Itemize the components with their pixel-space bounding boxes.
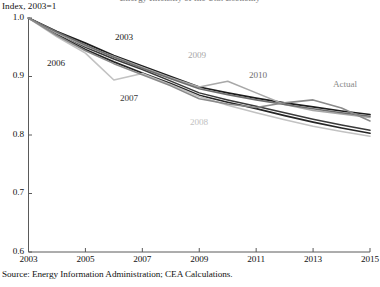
series-line-2003: [29, 18, 371, 115]
x-tick-label: 2005: [65, 254, 105, 264]
x-tick-label: 2011: [236, 254, 276, 264]
series-line-actual: [29, 18, 371, 121]
series-label-2006: 2006: [47, 58, 65, 68]
x-tick-label: 2009: [179, 254, 219, 264]
y-tick-label: 0.8: [2, 129, 24, 139]
x-tick-label: 2015: [350, 254, 380, 264]
series-label-actual: Actual: [333, 79, 357, 89]
series-label-2008: 2008: [190, 117, 208, 127]
y-tick-label: 0.7: [2, 187, 24, 197]
line-chart-plot: [0, 0, 380, 287]
series-line-2006: [29, 18, 371, 133]
y-tick-label: 1.0: [2, 12, 24, 22]
x-tick-label: 2013: [293, 254, 333, 264]
source-note: Source: Energy Information Administratio…: [2, 269, 233, 279]
x-tick-label: 2003: [9, 254, 49, 264]
y-tick-label: 0.9: [2, 70, 24, 80]
series-label-2010: 2010: [249, 70, 267, 80]
series-label-2007: 2007: [120, 93, 138, 103]
x-tick-label: 2007: [122, 254, 162, 264]
series-label-2009: 2009: [188, 50, 206, 60]
series-label-2003: 2003: [115, 32, 133, 42]
chart-figure: Energy Intensity of the U.S. Economy Ind…: [0, 0, 380, 287]
series-line-2009: [29, 18, 371, 117]
series-line-2007: [29, 18, 371, 130]
